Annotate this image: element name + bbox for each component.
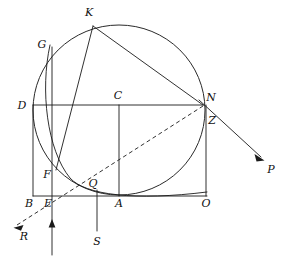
point-label-Q: Q (88, 177, 97, 190)
ray-N-P (199, 100, 261, 157)
point-label-C: C (114, 89, 123, 102)
arrow-up-E-icon (49, 219, 56, 228)
segment-K-N (93, 26, 203, 105)
diagram-canvas: K G D C N Z F Q B E A O P R S (0, 0, 295, 263)
point-label-Z: Z (207, 114, 216, 127)
point-label-P: P (266, 163, 275, 176)
point-label-D: D (17, 99, 27, 112)
arc-G-F-Q (46, 45, 207, 196)
geometry-figure: K G D C N Z F Q B E A O P R S (0, 0, 295, 263)
point-label-R: R (19, 230, 28, 243)
point-label-K: K (84, 6, 94, 19)
point-label-G: G (38, 38, 47, 51)
segment-K-F (56, 26, 93, 170)
point-label-N: N (205, 91, 216, 104)
point-label-B: B (24, 197, 33, 210)
point-label-S: S (93, 235, 101, 248)
point-label-O: O (201, 197, 210, 210)
point-label-F: F (42, 168, 51, 181)
point-label-E: E (43, 197, 52, 210)
point-label-A: A (114, 197, 123, 210)
